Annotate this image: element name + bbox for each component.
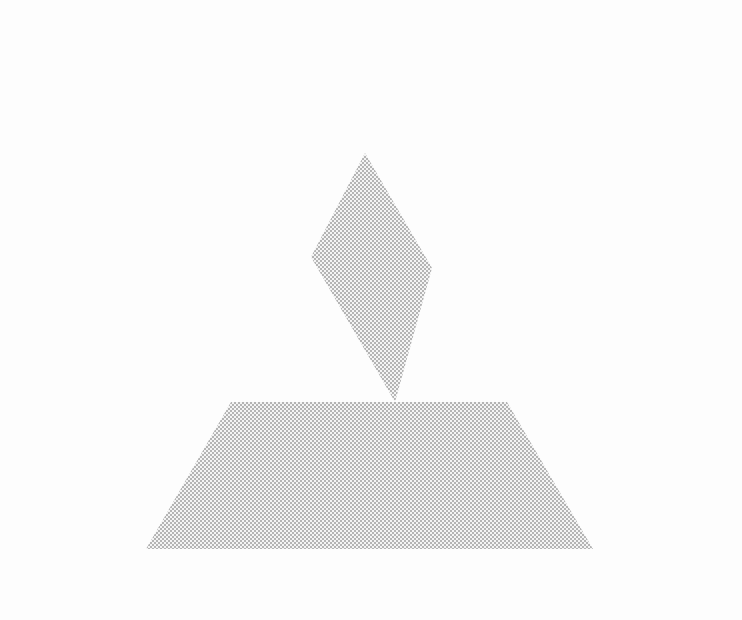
shaded-band-horizontal	[146, 402, 593, 549]
triangular-diagram	[0, 0, 742, 620]
diagram-svg	[0, 0, 742, 620]
shaded-rhombus-top	[311, 153, 432, 402]
